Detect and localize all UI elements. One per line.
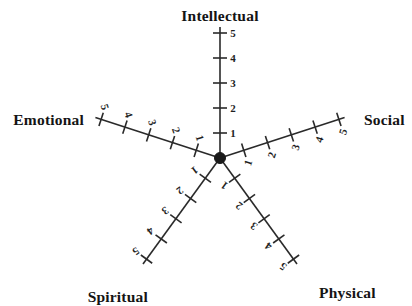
axis-title-spiritual: Spiritual (88, 288, 149, 305)
axis-title-social: Social (364, 111, 405, 128)
axes-group (95, 27, 344, 264)
axis-line-spiritual (143, 158, 220, 264)
tick-label-spiritual-4: 4 (145, 225, 157, 238)
tick-label-intellectual-4: 4 (230, 52, 236, 64)
tick-label-social-5: 5 (336, 127, 349, 136)
tick-mark-physical-4 (273, 235, 284, 243)
center-origin-dot (215, 153, 226, 164)
tick-label-emotional-4: 4 (122, 110, 135, 119)
tick-label-intellectual-1: 1 (230, 127, 236, 139)
axis-title-emotional: Emotional (13, 111, 84, 128)
tick-labels-group: 1234512345123451234512345 (99, 27, 350, 273)
tick-label-physical-4: 4 (262, 240, 274, 253)
axis-line-social (220, 118, 345, 158)
tick-label-spiritual-1: 1 (189, 164, 201, 177)
tick-label-spiritual-2: 2 (174, 184, 186, 197)
axis-title-intellectual: Intellectual (181, 7, 259, 24)
axis-line-physical (220, 158, 297, 264)
tick-label-physical-5: 5 (277, 260, 289, 273)
tick-label-social-2: 2 (265, 150, 278, 159)
tick-label-social-4: 4 (313, 135, 326, 144)
tick-label-emotional-3: 3 (146, 118, 159, 127)
tick-mark-physical-5 (288, 255, 299, 263)
tick-label-social-1: 1 (241, 158, 254, 167)
tick-label-physical-2: 2 (233, 199, 245, 212)
tick-label-intellectual-2: 2 (230, 102, 236, 114)
radar-chart-canvas: 1234512345123451234512345 IntellectualSo… (0, 0, 412, 306)
tick-label-emotional-2: 2 (170, 126, 183, 135)
tick-label-emotional-5: 5 (99, 103, 112, 112)
tick-mark-spiritual-2 (185, 194, 196, 202)
tick-mark-spiritual-1 (200, 174, 211, 182)
tick-label-intellectual-3: 3 (230, 77, 236, 89)
tick-label-intellectual-5: 5 (230, 27, 236, 39)
tick-label-social-3: 3 (289, 142, 302, 151)
tick-label-spiritual-3: 3 (159, 205, 171, 218)
tick-mark-spiritual-5 (141, 255, 152, 263)
tick-mark-spiritual-3 (170, 215, 181, 223)
radar-chart: 1234512345123451234512345 IntellectualSo… (0, 0, 412, 306)
tick-label-physical-3: 3 (247, 220, 259, 233)
tick-mark-spiritual-4 (156, 235, 167, 243)
tick-mark-physical-3 (258, 215, 269, 223)
tick-label-physical-1: 1 (218, 179, 230, 192)
axis-titles-group: IntellectualSocialPhysicalSpiritualEmoti… (13, 7, 405, 305)
tick-label-emotional-1: 1 (194, 133, 207, 142)
tick-mark-physical-2 (244, 194, 255, 202)
tick-label-spiritual-5: 5 (130, 245, 142, 258)
tick-mark-physical-1 (229, 174, 240, 182)
axis-title-physical: Physical (319, 284, 376, 301)
